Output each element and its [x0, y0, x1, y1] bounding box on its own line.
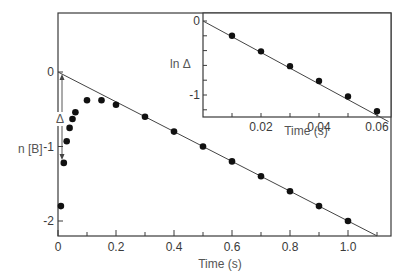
- chart: 00.20.40.60.81.00-1-2Time (s)n [B]Δ 0.02…: [0, 0, 404, 280]
- y-axis-label: n [B]: [18, 142, 43, 156]
- inset-frame: [203, 13, 391, 117]
- data-point: [142, 113, 149, 120]
- delta-label: Δ: [56, 112, 64, 126]
- y-tick-label: 0: [47, 65, 54, 79]
- data-point: [287, 188, 294, 195]
- y-tick-label: -2: [43, 214, 54, 228]
- data-point: [345, 218, 352, 225]
- data-point: [171, 128, 178, 135]
- x-tick-label: 0.2: [108, 240, 125, 254]
- inset-data-point: [229, 33, 235, 39]
- inset-data-point: [374, 108, 380, 114]
- inset-y-tick-label: -1: [189, 88, 200, 102]
- inset-x-axis-label: Time (s): [284, 124, 328, 138]
- x-tick-label: 1.0: [340, 240, 357, 254]
- inset-y-axis-label: ln Δ: [170, 57, 191, 71]
- inset-data-point: [258, 48, 264, 54]
- inset-y-tick-label: 0: [193, 14, 200, 28]
- data-point: [61, 160, 68, 167]
- arrow-down-icon: [60, 154, 65, 160]
- inset-x-tick-label: 0.02: [249, 120, 273, 134]
- x-tick-label: 0: [55, 240, 62, 254]
- data-point: [66, 125, 73, 132]
- x-tick-label: 0.8: [282, 240, 299, 254]
- data-point: [72, 109, 79, 116]
- x-tick-label: 0.4: [166, 240, 183, 254]
- data-point: [58, 203, 65, 210]
- inset-data-point: [287, 63, 293, 69]
- data-point: [69, 116, 76, 123]
- data-point: [84, 97, 91, 104]
- inset-plot: 0.020.040.060-1Time (s)ln Δ: [170, 13, 391, 138]
- data-point: [98, 97, 105, 104]
- y-tick-label: -1: [43, 140, 54, 154]
- x-tick-label: 0.6: [224, 240, 241, 254]
- x-axis-label: Time (s): [198, 257, 242, 271]
- data-point: [113, 101, 120, 108]
- data-point: [316, 203, 323, 210]
- data-point: [200, 143, 207, 150]
- inset-data-point: [345, 93, 351, 99]
- inset-x-tick-label: 0.06: [365, 120, 389, 134]
- data-point: [258, 173, 265, 180]
- data-point: [229, 158, 236, 165]
- inset-data-point: [316, 78, 322, 84]
- data-point: [63, 138, 70, 145]
